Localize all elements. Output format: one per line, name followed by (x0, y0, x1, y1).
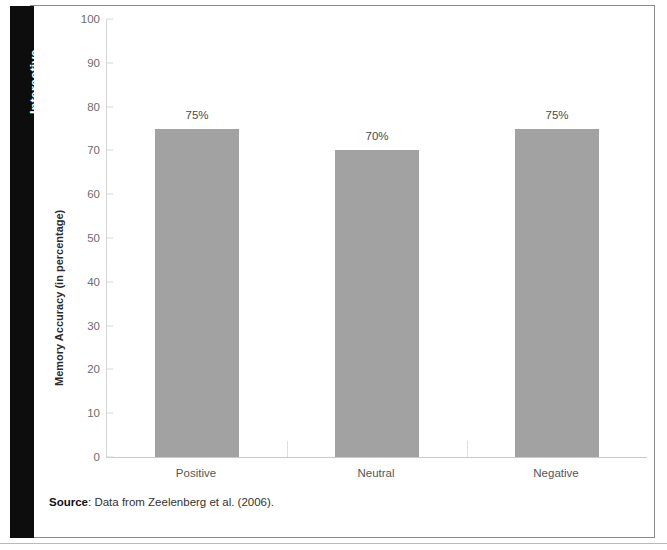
bar[interactable]: 75% (155, 129, 239, 458)
figure-bottom-rule (0, 543, 667, 544)
y-axis-title-label: Memory Accuracy (in percentage) (53, 210, 65, 386)
y-axis-tick-mark (107, 62, 113, 63)
y-axis-tick-mark (107, 150, 113, 151)
bar-value-label: 70% (365, 130, 388, 142)
y-axis-title: Memory Accuracy (in percentage) (39, 6, 59, 466)
interactive-side-tab-inner: Interactive (10, 18, 34, 138)
figure-box: Memory Accuracy (in percentage) 10090807… (30, 5, 655, 538)
y-axis-tick-label: 10 (87, 407, 100, 419)
y-axis-tick-mark (107, 106, 113, 107)
y-axis-tick-mark (107, 194, 113, 195)
bar-value-label: 75% (185, 109, 208, 121)
interactive-side-tab[interactable]: Interactive (10, 6, 34, 538)
y-axis-tick-label: 30 (87, 320, 100, 332)
x-axis-category-label: Positive (176, 467, 216, 479)
x-axis-category-label: Neutral (357, 467, 394, 479)
x-axis-category-separator (467, 441, 468, 457)
y-axis-tick-mark (107, 369, 113, 370)
source-note: Source: Data from Zeelenberg et al. (200… (49, 496, 274, 508)
x-axis-category-label: Negative (533, 467, 578, 479)
y-axis-tick-mark (107, 413, 113, 414)
y-axis-tick-label: 100 (81, 13, 100, 25)
y-axis-tick-label: 20 (87, 363, 100, 375)
source-note-prefix: Source (49, 496, 88, 508)
bar[interactable]: 70% (335, 150, 419, 457)
y-axis-tick-mark (107, 281, 113, 282)
interactive-side-tab-label: Interactive (28, 49, 34, 114)
y-axis-tick-label: 50 (87, 232, 100, 244)
source-note-text: Data from Zeelenberg et al. (2006). (94, 496, 274, 508)
y-axis-tick-mark (107, 325, 113, 326)
figure-page: Memory Accuracy (in percentage) 10090807… (0, 0, 667, 550)
chart-container: Memory Accuracy (in percentage) 10090807… (31, 6, 656, 539)
y-axis-tick-mark (107, 19, 113, 20)
y-axis-tick-label: 60 (87, 188, 100, 200)
y-axis-tick-label: 40 (87, 276, 100, 288)
y-axis-tick-label: 70 (87, 144, 100, 156)
plot-area: 100908070605040302010075%70%75% (106, 19, 647, 458)
y-axis-tick-mark (107, 457, 113, 458)
y-axis-tick-label: 0 (94, 451, 100, 463)
bar-value-label: 75% (545, 109, 568, 121)
y-axis-tick-label: 90 (87, 57, 100, 69)
y-axis-tick-label: 80 (87, 101, 100, 113)
y-axis-tick-mark (107, 238, 113, 239)
x-axis-category-separator (287, 441, 288, 457)
bar[interactable]: 75% (515, 129, 599, 458)
